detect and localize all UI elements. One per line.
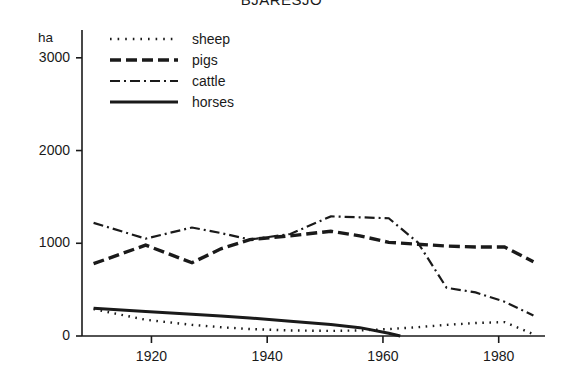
series-line-cattle: [94, 216, 534, 315]
y-axis-tick-label: 0: [12, 327, 70, 343]
x-axis-ticks: [151, 336, 498, 343]
data-series-group: [94, 216, 534, 336]
x-axis-tick-label: 1980: [469, 348, 529, 364]
x-axis-tick-label: 1920: [121, 348, 181, 364]
legend-label-sheep: sheep: [192, 32, 230, 46]
legend-label-pigs: pigs: [192, 53, 218, 67]
legend-swatch-dotted: [108, 32, 180, 46]
y-axis-tick-label: 2000: [12, 142, 70, 158]
x-axis-tick-label: 1940: [237, 348, 297, 364]
chart-container: BJÄRESJÖ ha 0100020003000 19201940196019…: [0, 0, 563, 377]
chart-legend: sheep pigs cattle horses: [108, 28, 278, 112]
x-axis-tick-label: 1960: [353, 348, 413, 364]
legend-label-cattle: cattle: [192, 74, 225, 88]
series-line-horses: [94, 308, 401, 336]
legend-item-sheep: sheep: [108, 28, 278, 49]
y-axis-ticks: [76, 58, 82, 336]
legend-label-horses: horses: [192, 95, 234, 109]
y-axis-tick-label: 3000: [12, 49, 70, 65]
legend-item-cattle: cattle: [108, 70, 278, 91]
plot-area: [0, 0, 563, 377]
legend-item-horses: horses: [108, 91, 278, 112]
legend-swatch-dash-dot: [108, 74, 180, 88]
legend-item-pigs: pigs: [108, 49, 278, 70]
legend-swatch-dashed: [108, 53, 180, 67]
y-axis-tick-label: 1000: [12, 234, 70, 250]
legend-swatch-solid: [108, 95, 180, 109]
